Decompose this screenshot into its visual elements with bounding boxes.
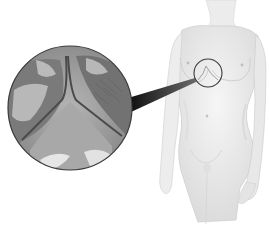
illustration-stage xyxy=(0,0,269,229)
anatomy-illustration xyxy=(0,0,269,229)
magnified-inset xyxy=(8,46,132,172)
nipple-right xyxy=(241,64,244,67)
nipple-left xyxy=(187,62,190,65)
female-figure xyxy=(160,0,266,224)
navel xyxy=(206,114,209,117)
